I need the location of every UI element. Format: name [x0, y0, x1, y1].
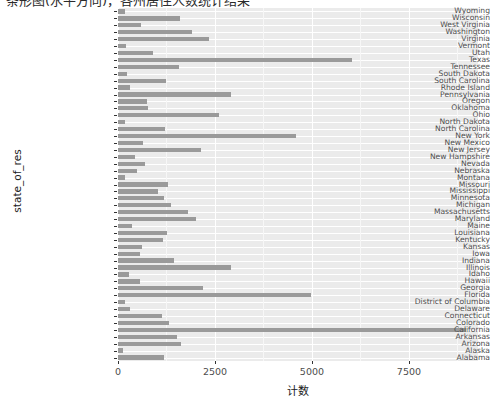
bar	[118, 203, 171, 207]
y-tick-mark	[114, 316, 117, 317]
bar	[118, 265, 231, 269]
bar	[118, 348, 123, 352]
y-tick-mark	[114, 108, 117, 109]
y-tick-mark	[114, 191, 117, 192]
x-tick-label: 0	[115, 366, 121, 377]
y-tick-mark	[114, 295, 117, 296]
y-tick-mark	[114, 25, 117, 26]
bar	[118, 355, 164, 359]
y-tick-mark	[114, 302, 117, 303]
bar	[118, 210, 188, 214]
y-tick-mark	[114, 101, 117, 102]
y-tick-mark	[114, 143, 117, 144]
bar	[118, 307, 130, 311]
bar	[118, 314, 162, 318]
x-tick-label: 2500	[203, 366, 227, 377]
bar	[118, 252, 140, 256]
y-tick-mark	[114, 274, 117, 275]
bar	[118, 342, 181, 346]
y-tick-mark	[114, 219, 117, 220]
x-tick-mark	[215, 361, 216, 364]
y-tick-mark	[114, 212, 117, 213]
y-tick-mark	[114, 129, 117, 130]
bar	[118, 72, 127, 76]
y-tick-mark	[114, 88, 117, 89]
bar	[118, 155, 135, 159]
bar	[118, 189, 158, 193]
y-tick-mark	[114, 46, 117, 47]
y-tick-mark	[114, 95, 117, 96]
bar	[118, 134, 296, 138]
y-tick-mark	[114, 261, 117, 262]
y-tick-mark	[114, 233, 117, 234]
y-tick-mark	[114, 198, 117, 199]
y-tick-mark	[114, 240, 117, 241]
bar	[118, 272, 129, 276]
bar	[118, 113, 219, 117]
bar-chart: 条形图(水平方向)，各州居住人数统计结果 state_of_res 计数 Wyo…	[0, 0, 490, 402]
bar	[118, 106, 148, 110]
bar	[118, 182, 168, 186]
bar	[118, 258, 174, 262]
x-axis-title: 计数	[118, 382, 478, 398]
x-tick-label: 5000	[300, 366, 324, 377]
y-tick-mark	[114, 18, 117, 19]
bar	[118, 58, 352, 62]
bar	[118, 224, 132, 228]
y-tick-mark	[114, 115, 117, 116]
bar	[118, 23, 141, 27]
y-tick-mark	[114, 164, 117, 165]
bar	[118, 9, 125, 13]
bar	[118, 231, 167, 235]
bar	[118, 279, 140, 283]
bar	[118, 65, 179, 69]
chart-title-text: 条形图(水平方向)，各州居住人数统计结果	[6, 0, 250, 8]
y-tick-mark	[114, 323, 117, 324]
bar	[118, 286, 203, 290]
bar	[118, 175, 125, 179]
y-tick-mark	[114, 254, 117, 255]
y-tick-mark	[114, 344, 117, 345]
y-tick-mark	[114, 337, 117, 338]
y-tick-mark	[114, 81, 117, 82]
y-tick-mark	[114, 60, 117, 61]
y-tick-mark	[114, 288, 117, 289]
bar	[118, 92, 231, 96]
y-tick-mark	[114, 67, 117, 68]
bar	[118, 162, 145, 166]
bar	[118, 245, 142, 249]
bar	[118, 217, 196, 221]
bar	[118, 44, 126, 48]
y-tick-mark	[114, 171, 117, 172]
bar	[118, 300, 125, 304]
bar	[118, 321, 169, 325]
y-tick-mark	[114, 74, 117, 75]
bar	[118, 238, 163, 242]
y-tick-mark	[114, 247, 117, 248]
bar	[118, 196, 164, 200]
y-tick-label: Alabama	[378, 354, 490, 362]
bar	[118, 120, 125, 124]
y-tick-mark	[114, 11, 117, 12]
y-tick-mark	[114, 358, 117, 359]
bar	[118, 16, 180, 20]
y-axis-title: state_of_res	[11, 126, 23, 236]
y-tick-mark	[114, 53, 117, 54]
bar	[118, 79, 166, 83]
y-tick-mark	[114, 178, 117, 179]
y-tick-mark	[114, 205, 117, 206]
bar	[118, 148, 201, 152]
x-tick-mark	[409, 361, 410, 364]
y-tick-mark	[114, 157, 117, 158]
x-tick-label: 7500	[397, 366, 421, 377]
bar	[118, 51, 153, 55]
y-tick-mark	[114, 32, 117, 33]
bar	[118, 30, 192, 34]
y-tick-mark	[114, 136, 117, 137]
y-tick-mark	[114, 351, 117, 352]
gridline-vertical-minor	[360, 8, 361, 361]
bar	[118, 335, 177, 339]
bar	[118, 99, 147, 103]
y-tick-mark	[114, 226, 117, 227]
y-tick-mark	[114, 150, 117, 151]
